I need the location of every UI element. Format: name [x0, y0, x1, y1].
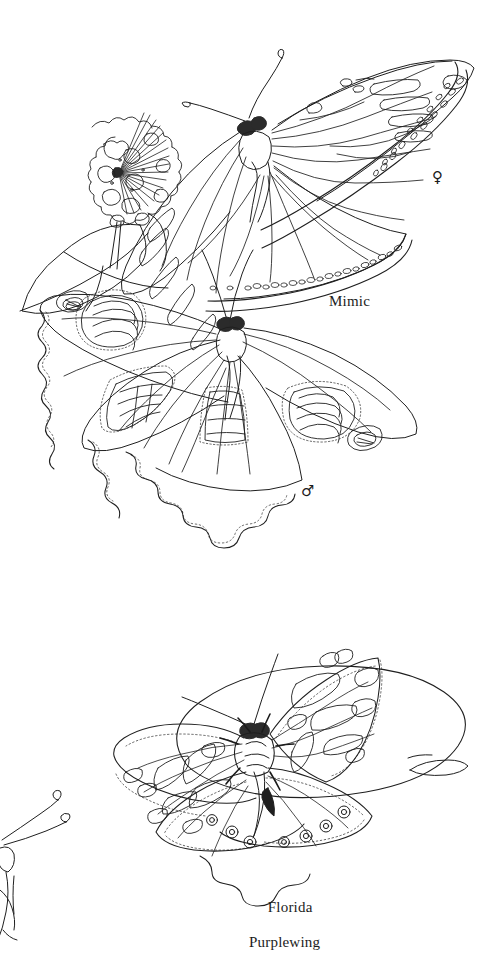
broad-leaf — [177, 666, 468, 798]
leaf-stem — [410, 760, 468, 775]
purplewing-label-line-2: Purplewing — [249, 934, 320, 952]
purplewing-label-line-1: Florida — [268, 899, 313, 915]
male-symbol-icon: ♂ — [301, 484, 314, 499]
female-symbol-icon: ♀ — [432, 170, 443, 185]
florida-purplewing-label: Florida Purplewing — [252, 881, 320, 954]
cropped-butterfly-head — [0, 790, 70, 940]
mimic-label: Mimic — [329, 293, 370, 311]
florida-purplewing-butterfly — [114, 649, 382, 906]
